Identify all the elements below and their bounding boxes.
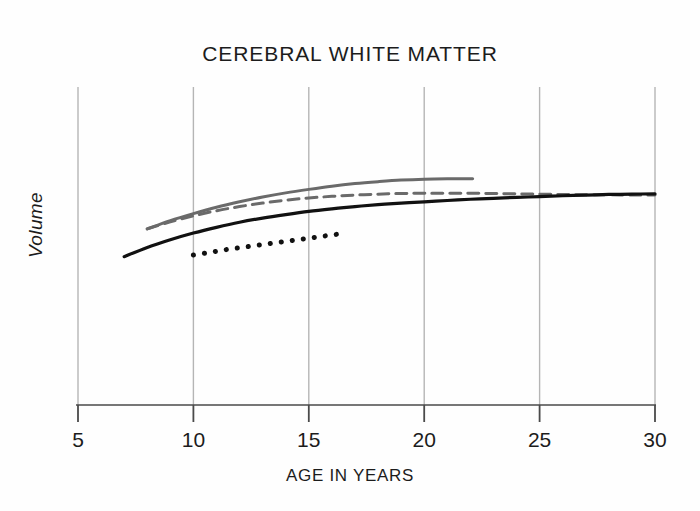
data-series [124, 179, 655, 257]
axis-ticks [78, 405, 655, 422]
x-tick-label: 30 [625, 428, 685, 452]
series-line-gray-dashed [147, 193, 655, 229]
x-tick-label: 5 [48, 428, 108, 452]
x-axis-label: AGE IN YEARS [0, 466, 700, 486]
x-tick-label: 15 [279, 428, 339, 452]
series-line-black-dotted [193, 234, 338, 255]
x-tick-label: 10 [163, 428, 223, 452]
series-line-black-solid [124, 194, 655, 257]
chart-figure: CEREBRAL WHITE MATTER Volume 51015202530… [0, 0, 700, 511]
x-tick-label: 25 [510, 428, 570, 452]
x-tick-label: 20 [394, 428, 454, 452]
gridlines [78, 87, 655, 405]
